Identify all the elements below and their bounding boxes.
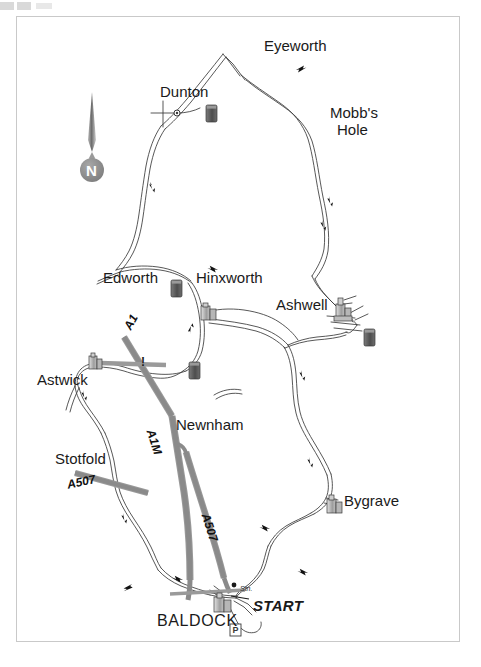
place-label-dunton: Dunton (160, 84, 208, 100)
map-graphic: P (0, 0, 481, 667)
place-label-bygrave: Bygrave (344, 493, 399, 509)
place-label-eyeworth: Eyeworth (264, 38, 327, 54)
place-label-edworth: Edworth (103, 270, 158, 286)
map-page: P Eyeworth Dunton Mobb's Hole Edworth Hi… (0, 0, 481, 667)
hazard-icon: ! (141, 356, 145, 369)
place-label-mobbs-hole: Mobb's (330, 105, 378, 121)
compass-north-letter: N (86, 162, 97, 179)
place-label-hinxworth: Hinxworth (196, 270, 263, 286)
place-label-astwick: Astwick (37, 372, 88, 388)
place-label-baldock: BALDOCK (157, 613, 238, 630)
place-label-ashwell: Ashwell (276, 297, 328, 313)
station-label: Stn. (240, 585, 252, 592)
place-label-mobbs-hole-second-line: Hole (337, 122, 368, 138)
place-label-newnham: Newnham (176, 417, 244, 433)
place-label-stotfold: Stotfold (55, 451, 106, 467)
start-marker-label: START (253, 598, 303, 614)
station-dot (232, 583, 237, 588)
